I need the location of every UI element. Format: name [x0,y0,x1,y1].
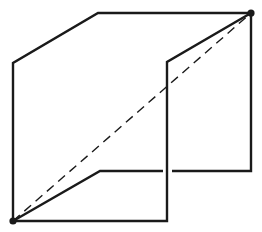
vertex-top-right-dot [247,9,254,16]
vertex-bottom-left-dot [9,217,16,224]
folded-panel-diagram [0,0,262,232]
